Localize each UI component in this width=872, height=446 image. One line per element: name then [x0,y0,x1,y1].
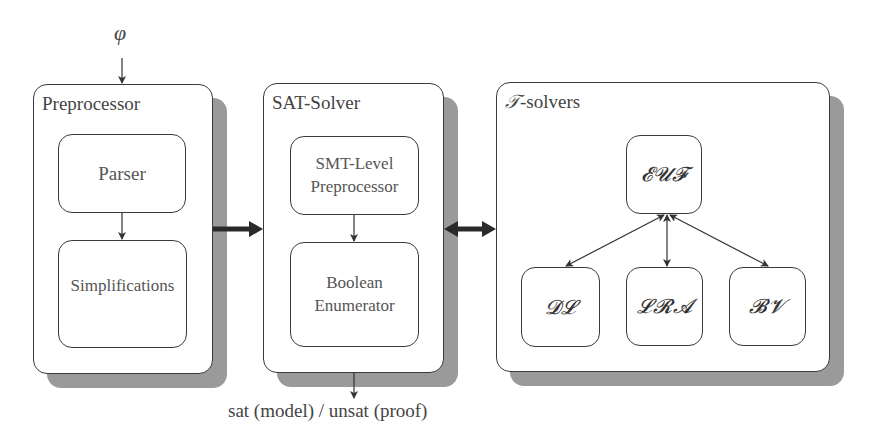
formula-input-symbol: φ [114,20,126,46]
euf-dl-arrow [566,215,664,266]
arrows-layer [0,0,872,446]
euf-bv-arrow [670,215,768,266]
result-output-label: sat (model) / unsat (proof) [228,400,427,422]
